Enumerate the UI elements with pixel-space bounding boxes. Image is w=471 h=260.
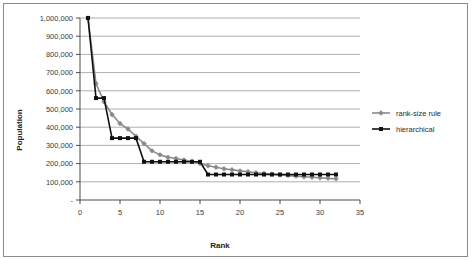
y-tick-label: 1,000,000: [40, 14, 73, 23]
x-axis-title: Rank: [210, 241, 230, 250]
data-point: [166, 160, 170, 164]
x-tick-label: 25: [276, 208, 284, 217]
data-point: [222, 173, 226, 177]
data-point: [310, 173, 314, 177]
data-point: [102, 96, 106, 100]
data-point: [190, 160, 194, 164]
y-tick-label: 800,000: [46, 50, 73, 59]
data-point: [150, 160, 154, 164]
x-tick-label: 35: [356, 208, 364, 217]
data-point: [110, 136, 114, 140]
data-point: [302, 173, 306, 177]
data-point: [334, 173, 338, 177]
x-tick-label: 5: [118, 208, 122, 217]
x-tick-label: 30: [316, 208, 324, 217]
x-tick-label: 15: [196, 208, 204, 217]
data-point: [86, 16, 90, 20]
chart-container: -100,000200,000300,000400,000500,000600,…: [0, 0, 471, 260]
x-tick-label: 10: [156, 208, 164, 217]
data-point: [134, 136, 138, 140]
x-tick-label: 20: [236, 208, 244, 217]
legend-label: rank-size rule: [396, 109, 441, 118]
x-tick-label: 0: [78, 208, 82, 217]
data-point: [326, 173, 330, 177]
data-point: [158, 160, 162, 164]
data-point: [142, 160, 146, 164]
data-point: [286, 173, 290, 177]
y-tick-label: 200,000: [46, 159, 73, 168]
legend-label: hierarchical: [396, 125, 435, 134]
data-point: [246, 173, 250, 177]
data-point: [174, 160, 178, 164]
y-tick-label: 700,000: [46, 68, 73, 77]
legend-marker-square-icon: [379, 127, 383, 131]
data-point: [214, 173, 218, 177]
data-point: [230, 173, 234, 177]
y-tick-label: 500,000: [46, 105, 73, 114]
data-point: [254, 173, 258, 177]
data-point: [238, 173, 242, 177]
y-tick-label: 400,000: [46, 123, 73, 132]
data-point: [262, 173, 266, 177]
data-point: [294, 173, 298, 177]
data-point: [126, 136, 130, 140]
population-rank-line-chart: -100,000200,000300,000400,000500,000600,…: [0, 0, 471, 260]
data-point: [270, 173, 274, 177]
data-point: [118, 136, 122, 140]
data-point: [198, 160, 202, 164]
y-tick-label: 600,000: [46, 87, 73, 96]
data-point: [318, 173, 322, 177]
y-tick-label: 100,000: [46, 178, 73, 187]
y-tick-label: 300,000: [46, 141, 73, 150]
y-axis-title: Population: [15, 109, 24, 150]
data-point: [278, 173, 282, 177]
y-tick-label: 900,000: [46, 32, 73, 41]
data-point: [206, 173, 210, 177]
data-point: [182, 160, 186, 164]
data-point: [94, 96, 98, 100]
